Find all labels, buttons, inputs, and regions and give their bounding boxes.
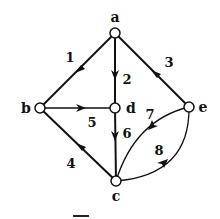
node-label-c: c: [112, 188, 121, 204]
node-label-a: a: [110, 9, 119, 25]
edge-label-3: 3: [164, 55, 173, 70]
node-label-e: e: [199, 99, 208, 115]
edge-1-a-to-b: [40, 33, 115, 108]
edge-label-6: 6: [122, 126, 131, 141]
edge-label-1: 1: [65, 50, 74, 65]
directed-graph-diagram: a b d e c 1 2 3 4 5 6 7 8: [0, 0, 220, 219]
caption-fragment: [73, 215, 89, 217]
edge-6-d-to-c: [111, 108, 119, 181]
edge-2-a-to-d: [111, 33, 119, 108]
edge-5-b-to-d: [40, 104, 115, 112]
node-c: c: [111, 176, 121, 204]
edge-3-e-to-a: [115, 33, 189, 107]
node-label-d: d: [126, 100, 136, 116]
node-a: a: [110, 9, 120, 38]
edge-label-8: 8: [154, 143, 163, 158]
edge-4-c-to-b: [40, 108, 116, 181]
edge-label-4: 4: [66, 156, 75, 171]
node-b: b: [21, 100, 45, 116]
node-e: e: [184, 99, 208, 115]
edge-label-2: 2: [122, 72, 131, 87]
edge-label-5: 5: [87, 115, 96, 130]
node-d: d: [110, 100, 136, 116]
edge-label-7: 7: [145, 107, 154, 122]
arrow-icon: [75, 65, 85, 73]
node-label-b: b: [21, 100, 31, 116]
